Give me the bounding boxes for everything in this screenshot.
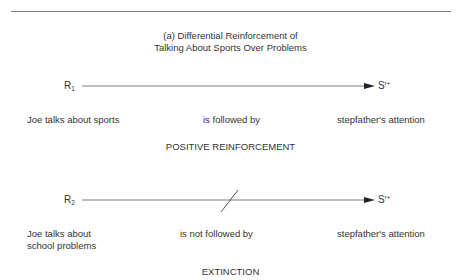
relation-label: is followed by — [203, 114, 260, 126]
arrow-followed-by — [82, 80, 382, 92]
consequence-superscript: r+ — [385, 80, 391, 86]
arrowhead-icon — [364, 197, 375, 203]
response-symbol-r1: R1 — [64, 80, 75, 92]
diagram-title: (a) Differential Reinforcement of Talkin… — [0, 30, 461, 54]
title-line-1: (a) Differential Reinforcement of — [0, 30, 461, 42]
response-label: Joe talks about school problems — [27, 228, 96, 252]
procedure-label: EXTINCTION — [0, 266, 461, 277]
consequence-label: stepfather's attention — [337, 228, 425, 240]
response-label-line-1: Joe talks about — [27, 228, 96, 240]
consequence-superscript: r+ — [385, 194, 391, 200]
title-line-2: Talking About Sports Over Problems — [0, 42, 461, 54]
arrow-blocked — [82, 194, 382, 218]
response-subscript: 1 — [71, 85, 75, 92]
response-label-line-2: school problems — [27, 240, 96, 252]
consequence-symbol-sr: Sr+ — [378, 80, 390, 91]
consequence-symbol-sr: Sr+ — [378, 194, 390, 205]
response-subscript: 2 — [71, 199, 75, 206]
relation-label: is not followed by — [180, 228, 253, 240]
consequence-letter: S — [378, 194, 385, 205]
arrowhead-icon — [364, 83, 375, 89]
slash-block-icon — [221, 190, 238, 212]
top-rule — [11, 11, 451, 12]
response-label: Joe talks about sports — [27, 114, 119, 126]
consequence-letter: S — [378, 80, 385, 91]
response-symbol-r2: R2 — [64, 194, 75, 206]
procedure-label: POSITIVE REINFORCEMENT — [0, 141, 461, 152]
consequence-label: stepfather's attention — [337, 114, 425, 126]
